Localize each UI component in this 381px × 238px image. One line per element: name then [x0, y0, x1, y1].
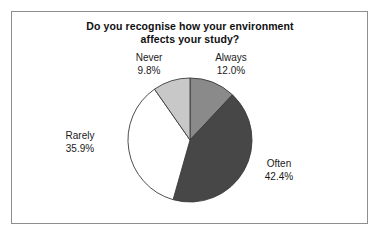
slice-label-rarely-value: 35.9%	[52, 143, 108, 156]
slice-label-often-value: 42.4%	[251, 171, 307, 184]
pie-chart-figure: Do you recognise how your environment af…	[0, 0, 381, 238]
slice-label-often: Often 42.4%	[251, 158, 307, 183]
slice-label-rarely: Rarely 35.9%	[52, 130, 108, 155]
slice-label-always: Always 12.0%	[203, 52, 259, 77]
slice-label-never-value: 9.8%	[123, 65, 175, 78]
slice-label-never-name: Never	[136, 52, 163, 63]
slice-label-never: Never 9.8%	[123, 52, 175, 77]
pie-slices-group	[128, 78, 252, 202]
slice-label-always-name: Always	[215, 52, 247, 63]
pie-svg	[0, 0, 381, 238]
slice-label-often-name: Often	[267, 158, 291, 169]
slice-label-rarely-name: Rarely	[66, 130, 95, 141]
slice-label-always-value: 12.0%	[203, 65, 259, 78]
